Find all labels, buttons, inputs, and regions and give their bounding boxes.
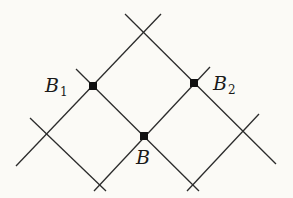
- label-b2-sub: 2: [228, 83, 236, 97]
- point-b2-dot: [190, 79, 198, 87]
- label-b: B: [136, 148, 150, 167]
- point-b1-dot: [89, 82, 97, 90]
- lattice-svg: [0, 0, 293, 198]
- label-b2: B2: [213, 74, 236, 96]
- label-b1-main: B: [45, 74, 59, 96]
- label-b2-main: B: [213, 72, 227, 94]
- label-b1-sub: 1: [60, 85, 68, 99]
- lattice-diagram: B1 B2 B: [0, 0, 293, 198]
- lattice-line-up-right-3: [187, 114, 259, 191]
- lattice-line-down-right-3: [30, 118, 106, 191]
- lattice-line-down-right-1: [125, 14, 276, 164]
- point-b-dot: [140, 132, 148, 140]
- label-b1: B1: [45, 76, 68, 98]
- label-b-main: B: [136, 146, 150, 168]
